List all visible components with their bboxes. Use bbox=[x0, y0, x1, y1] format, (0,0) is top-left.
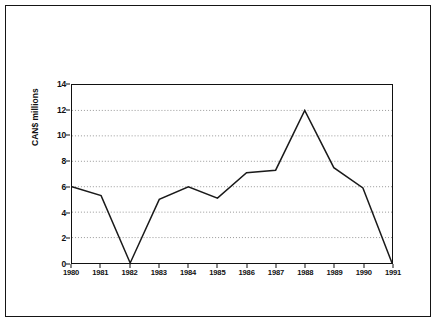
x-axis-tick-label: 1990 bbox=[356, 268, 372, 277]
y-axis-tick-mark bbox=[66, 264, 70, 265]
data-series-line bbox=[72, 85, 392, 263]
y-axis-tick-mark bbox=[66, 186, 70, 187]
x-axis-tick-label: 1988 bbox=[297, 268, 313, 277]
y-axis-tick-label: 14 bbox=[57, 79, 66, 89]
x-axis-tick-label: 1986 bbox=[239, 268, 255, 277]
y-axis-tick-label: 12 bbox=[57, 105, 66, 115]
x-axis-tick-label: 1989 bbox=[326, 268, 342, 277]
figure-page: CAN$ millions 02468101214 19801981198219… bbox=[0, 0, 438, 331]
series-polyline bbox=[72, 110, 392, 263]
x-axis-tick-label: 1983 bbox=[151, 268, 167, 277]
y-axis-tick-mark bbox=[66, 161, 70, 162]
x-axis-tick-label: 1980 bbox=[63, 268, 79, 277]
x-axis-tick-label: 1981 bbox=[92, 268, 108, 277]
x-axis-tick-label: 1991 bbox=[385, 268, 401, 277]
x-axis-tick-label: 1982 bbox=[121, 268, 137, 277]
x-axis-tick-label: 1985 bbox=[209, 268, 225, 277]
x-axis-tick-label: 1987 bbox=[268, 268, 284, 277]
x-axis-tick-label: 1984 bbox=[180, 268, 196, 277]
y-axis-tick-label: 10 bbox=[57, 130, 66, 140]
y-axis-tick-mark bbox=[66, 135, 70, 136]
y-axis-tick-mark bbox=[66, 84, 70, 85]
y-axis-tick-mark bbox=[66, 238, 70, 239]
plot-area bbox=[71, 84, 393, 264]
x-axis-tick-labels: 1980198119821983198419851986198719881989… bbox=[71, 268, 393, 282]
y-axis-title: CAN$ millions bbox=[30, 88, 40, 146]
y-axis-tick-labels: 02468101214 bbox=[46, 84, 66, 264]
y-axis-tick-mark bbox=[66, 212, 70, 213]
figure-border: CAN$ millions 02468101214 19801981198219… bbox=[5, 5, 431, 317]
y-axis-tick-mark bbox=[66, 109, 70, 110]
